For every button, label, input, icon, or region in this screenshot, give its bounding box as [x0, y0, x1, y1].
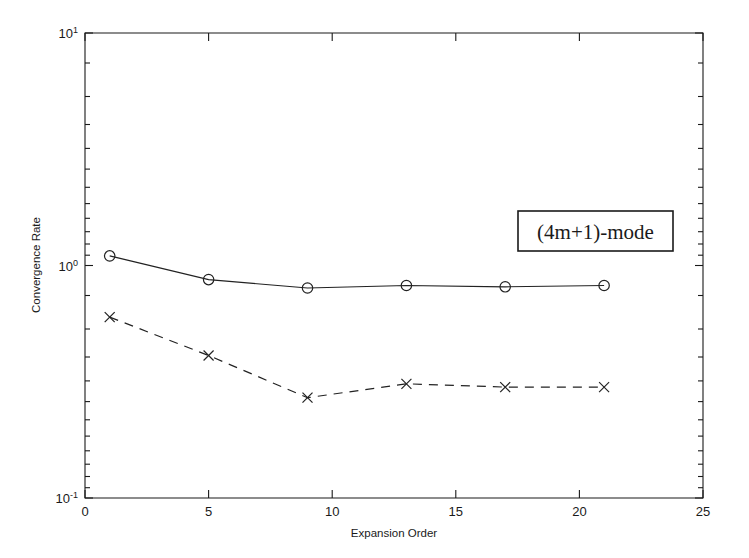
y-axis-title: Convergence Rate	[30, 217, 42, 313]
chart-background	[0, 0, 749, 558]
x-tick-label-5: 5	[205, 504, 212, 519]
x-tick-label-10: 10	[325, 504, 339, 519]
mode-annotation-label: (4m+1)-mode	[537, 220, 654, 244]
x-axis-title: Expansion Order	[351, 527, 437, 539]
chart-canvas: 101 100 10-1 0 5 10 15 20 25	[0, 0, 749, 558]
x-tick-label-0: 0	[81, 504, 88, 519]
y-tick-exp-neg1: -1	[70, 490, 78, 500]
y-tick-exp-0: 0	[73, 258, 78, 268]
convergence-rate-chart: 101 100 10-1 0 5 10 15 20 25	[0, 0, 749, 558]
mode-annotation: (4m+1)-mode	[518, 211, 673, 251]
x-tick-label-25: 25	[696, 504, 710, 519]
x-tick-label-20: 20	[572, 504, 586, 519]
x-tick-label-15: 15	[449, 504, 463, 519]
y-tick-exp-1: 1	[73, 25, 78, 35]
